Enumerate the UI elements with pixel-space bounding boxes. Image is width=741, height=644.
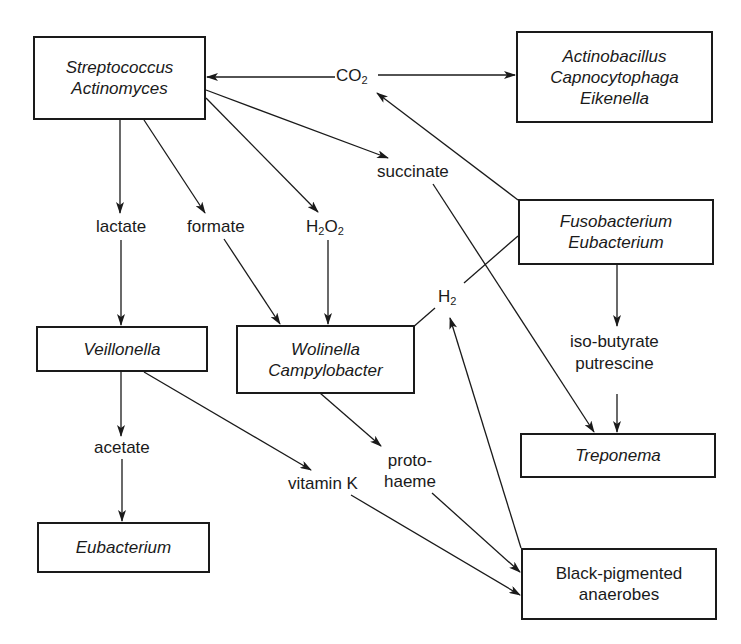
node-fusobacterium-eubacterium: Fusobacterium Eubacterium <box>518 199 714 265</box>
node-line: Streptococcus <box>66 57 174 78</box>
node-line: Treponema <box>575 445 661 466</box>
node-actinobacillus-capnocytophaga-eikenella: Actinobacillus Capnocytophaga Eikenella <box>516 31 713 123</box>
label-vitamin-k: vitamin K <box>288 474 358 494</box>
node-line: Actinobacillus <box>563 46 667 67</box>
node-line: Fusobacterium <box>560 211 672 232</box>
node-black-pigmented-anaerobes: Black-pigmented anaerobes <box>521 548 717 620</box>
node-line: Black-pigmented <box>556 563 683 584</box>
label-h2o2: H2O2 <box>306 217 344 237</box>
label-h2: H2 <box>438 287 456 307</box>
label-lactate: lactate <box>96 217 146 237</box>
node-line: Campylobacter <box>268 360 382 381</box>
edge-strep-to-formate <box>144 120 205 213</box>
node-streptococcus-actinomyces: Streptococcus Actinomyces <box>33 36 206 120</box>
label-succinate: succinate <box>377 162 449 182</box>
label-co2: CO2 <box>336 66 368 86</box>
node-line: Eubacterium <box>76 537 171 558</box>
edge-fuso-to-co2 <box>377 93 518 200</box>
edge-strep-to-succinate <box>206 90 388 158</box>
label-proto-haeme: proto- haeme <box>384 450 436 492</box>
node-line: anaerobes <box>579 584 659 605</box>
node-line: Veillonella <box>84 339 161 360</box>
node-line: Wolinella <box>291 339 360 360</box>
node-veillonella: Veillonella <box>36 326 208 372</box>
node-line: Eikenella <box>580 88 649 109</box>
node-line: Actinomyces <box>71 78 167 99</box>
edge-bpa-to-h2 <box>450 318 521 548</box>
node-wolinella-campylobacter: Wolinella Campylobacter <box>236 325 415 394</box>
edge-protohaeme-to-bpa <box>432 493 520 572</box>
node-line: Capnocytophaga <box>550 67 679 88</box>
label-acetate: acetate <box>94 438 150 458</box>
edge-formate-to-wolinella <box>224 239 280 324</box>
metabolic-network-diagram: Streptococcus Actinomyces Actinobacillus… <box>0 0 741 644</box>
node-line: Eubacterium <box>568 232 663 253</box>
edge-strep-to-h2o2 <box>206 98 318 212</box>
label-formate: formate <box>187 217 245 237</box>
node-eubacterium: Eubacterium <box>37 522 210 573</box>
label-isobutyrate-putrescine: iso-butyrate putrescine <box>570 331 659 375</box>
node-treponema: Treponema <box>520 433 716 478</box>
edge-wolinella-to-protohaeme <box>320 393 381 446</box>
edge-vitamink-to-bpa <box>351 495 520 595</box>
